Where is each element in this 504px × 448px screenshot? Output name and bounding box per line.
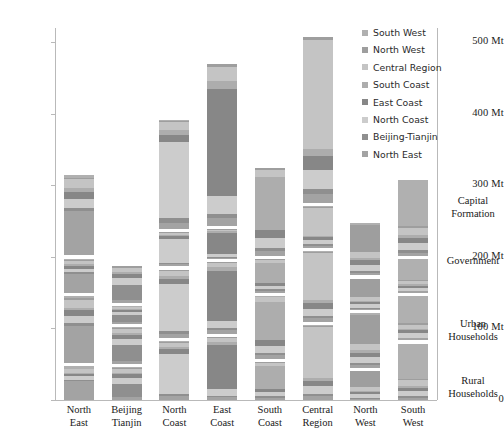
legend-item-beijing-tianjin[interactable]: Beijing-Tianjin	[362, 128, 442, 145]
bar-segment	[159, 334, 189, 338]
bar-segment	[64, 274, 94, 293]
demand-block[interactable]	[255, 168, 285, 257]
bar-segment	[159, 284, 189, 331]
demand-block[interactable]	[64, 175, 94, 255]
bar-segment	[255, 398, 285, 400]
legend-item-label: South Coast	[373, 80, 429, 89]
bar-south-west[interactable]	[398, 180, 428, 400]
bar-segment	[398, 243, 428, 250]
demand-block[interactable]	[350, 279, 380, 310]
demand-block[interactable]	[64, 296, 94, 363]
bar-segment	[159, 396, 189, 400]
demand-block[interactable]	[207, 337, 237, 400]
demand-block[interactable]	[112, 367, 142, 400]
demand-block[interactable]	[159, 341, 189, 400]
demand-block[interactable]	[207, 262, 237, 333]
demand-block[interactable]	[64, 259, 94, 293]
demand-block[interactable]	[112, 327, 142, 364]
legend-item-north-west[interactable]: North West	[362, 41, 442, 58]
bar-segment	[207, 345, 237, 389]
demand-block[interactable]	[350, 313, 380, 367]
legend-swatch-icon	[362, 82, 368, 88]
legend-item-label: Beijing-Tianjin	[373, 132, 438, 141]
bar-segment	[255, 251, 285, 256]
legend-item-north-coast[interactable]: North Coast	[362, 111, 442, 128]
demand-block[interactable]	[112, 306, 142, 324]
demand-block[interactable]	[159, 120, 189, 229]
bar-segment	[303, 208, 333, 236]
demand-block[interactable]	[159, 232, 189, 266]
block-label-capital-formation: CapitalFormation	[442, 195, 504, 220]
bar-south-coast[interactable]	[255, 168, 285, 401]
demand-block[interactable]	[398, 180, 428, 256]
bar-segment	[350, 273, 380, 276]
legend-swatch-icon	[362, 99, 368, 105]
legend-item-label: South West	[373, 28, 426, 37]
demand-block[interactable]	[303, 206, 333, 247]
bar-segment	[303, 246, 333, 248]
bar-segment	[398, 291, 428, 292]
bar-segment	[64, 316, 94, 323]
bar-slot	[103, 28, 151, 400]
bar-north-east[interactable]	[64, 175, 94, 400]
bar-segment	[159, 142, 189, 218]
legend-item-north-east[interactable]: North East	[362, 146, 442, 163]
legend-item-label: North West	[373, 45, 425, 54]
bar-segment	[64, 199, 94, 208]
demand-block[interactable]	[350, 223, 380, 275]
demand-block[interactable]	[112, 266, 142, 303]
bar-segment	[112, 322, 142, 323]
demand-block[interactable]	[398, 259, 428, 293]
bar-segment	[64, 179, 94, 188]
bar-beijing-tianjin[interactable]	[112, 266, 142, 400]
demand-block[interactable]	[255, 362, 285, 400]
demand-block[interactable]	[398, 344, 428, 400]
bar-segment	[255, 170, 285, 177]
demand-block[interactable]	[303, 325, 333, 400]
bar-segment	[398, 228, 428, 236]
bar-slot	[151, 28, 199, 400]
demand-block[interactable]	[64, 366, 94, 400]
bar-north-west[interactable]	[350, 223, 380, 400]
demand-block[interactable]	[255, 259, 285, 293]
legend-item-label: North Coast	[373, 115, 428, 124]
bar-segment	[112, 315, 142, 322]
bar-segment	[64, 300, 94, 308]
demand-block[interactable]	[159, 270, 189, 339]
bar-segment	[350, 365, 380, 368]
y-tick-mark-0	[51, 400, 55, 401]
bar-central-region[interactable]	[303, 37, 333, 400]
bar-segment	[159, 239, 189, 263]
demand-block[interactable]	[303, 251, 333, 322]
demand-block[interactable]	[398, 296, 428, 340]
bar-segment	[350, 371, 380, 387]
demand-block[interactable]	[350, 371, 380, 400]
legend-swatch-icon	[362, 151, 368, 157]
legend-item-east-coast[interactable]: East Coast	[362, 94, 442, 111]
demand-block[interactable]	[255, 296, 285, 359]
bar-segment	[303, 318, 333, 322]
demand-block[interactable]	[207, 229, 237, 259]
block-label-urban-households: UrbanHouseholds	[442, 318, 504, 343]
bar-segment	[303, 40, 333, 149]
y-tick-label-400: 400 Mt	[458, 108, 504, 119]
bar-segment	[303, 327, 333, 378]
bar-segment	[64, 381, 94, 400]
demand-block[interactable]	[207, 64, 237, 226]
demand-block[interactable]	[303, 37, 333, 204]
bar-north-coast[interactable]	[159, 120, 189, 400]
legend-swatch-icon	[362, 47, 368, 53]
legend-item-south-west[interactable]: South West	[362, 24, 442, 41]
x-axis-line	[55, 400, 437, 401]
legend-item-south-coast[interactable]: South Coast	[362, 76, 442, 93]
bar-segment	[112, 300, 142, 303]
bar-segment	[303, 170, 333, 189]
legend-item-central-region[interactable]: Central Region	[362, 59, 442, 76]
bar-segment	[350, 309, 380, 310]
bar-east-coast[interactable]	[207, 64, 237, 400]
bar-segment	[64, 326, 94, 363]
bar-segment	[207, 67, 237, 81]
bar-segment	[303, 309, 333, 316]
bar-segment	[112, 384, 142, 398]
bar-segment	[350, 279, 380, 297]
